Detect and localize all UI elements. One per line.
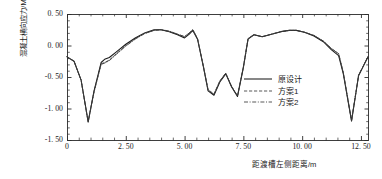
series-line-2: [67, 30, 368, 122]
legend-swatch-dashdot: [244, 102, 272, 103]
chart-legend: 原设计方案1方案2: [244, 74, 302, 109]
legend-item-1: 原设计: [244, 74, 302, 86]
chart-figure: 混凝土横向应力/MPa 0. 500. 00-0. 50-1. 00-1. 50…: [0, 0, 382, 179]
legend-swatch-solid: [244, 79, 272, 80]
legend-item-3: 方案2: [244, 97, 302, 109]
legend-item-2: 方案1: [244, 86, 302, 98]
legend-label: 方案2: [278, 97, 298, 109]
legend-label: 原设计: [278, 74, 302, 86]
series-line-1: [67, 30, 368, 122]
legend-label: 方案1: [278, 86, 298, 98]
series-line-3: [67, 30, 368, 123]
plot-frame: [68, 15, 369, 141]
legend-swatch-dashed: [244, 91, 272, 92]
plot-canvas: [0, 0, 382, 179]
